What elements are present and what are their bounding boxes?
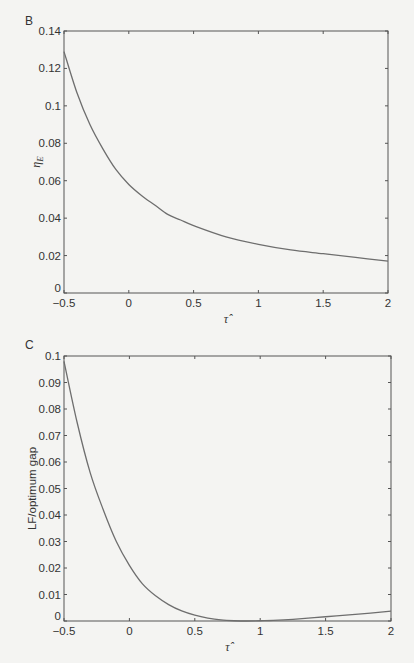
y-tick-label: 0.05 [39,483,61,495]
y-tick-label: 0.08 [39,403,61,415]
y-tick-label: 0.09 [39,377,61,389]
y-tick-label: 0.1 [45,350,61,362]
data-line [64,361,391,621]
plot-frame [64,356,391,621]
x-tick-label: 2 [388,625,394,637]
y-axis-label: LF/optimum gap [26,447,38,530]
y-tick-label: 0.01 [39,589,61,601]
y-tick-label: 0.04 [39,509,62,521]
y-tick-label: 0.06 [39,456,61,468]
y-tick-label: 0 [55,610,61,622]
x-tick-label: 0 [126,625,132,637]
x-axis-label: τ̂ [225,640,234,654]
chart-panel-c: C −0.500.511.5200.010.020.030.040.050.06… [0,0,414,663]
y-tick-label: 0.02 [39,562,61,574]
y-tick-label: 0.07 [39,430,61,442]
x-tick-label: 1.5 [318,625,334,637]
x-tick-label: −0.5 [53,625,76,637]
x-tick-label: 1 [257,625,263,637]
chart-c-plot: −0.500.511.5200.010.020.030.040.050.060.… [0,0,414,663]
y-tick-label: 0.03 [39,536,61,548]
x-tick-label: 0.5 [187,625,203,637]
